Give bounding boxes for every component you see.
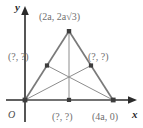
label-origin: O — [8, 110, 15, 120]
medians — [25, 31, 113, 100]
label-apex-vertex: (2a, 2a√3) — [39, 12, 80, 22]
label-right-side-midpoint: (?, ?) — [88, 52, 109, 62]
label-right-vertex: (4a, 0) — [92, 112, 118, 122]
label-x-axis: x — [132, 109, 138, 120]
label-base-midpoint: (?, ?) — [52, 112, 73, 122]
geometry-figure: (2a, 2a√3) (?, ?) (?, ?) (?, ?) (4a, 0) … — [0, 0, 143, 128]
label-y-axis: y — [15, 2, 20, 13]
y-axis — [21, 6, 29, 122]
label-left-side-midpoint: (?, ?) — [8, 52, 29, 62]
